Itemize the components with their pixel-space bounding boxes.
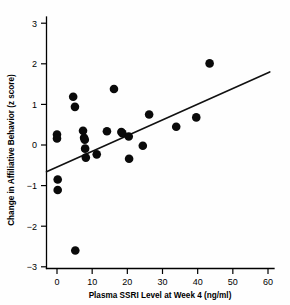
x-tick-label: 50: [228, 277, 238, 287]
x-tick-label: 10: [87, 277, 97, 287]
x-tick-label: 30: [157, 277, 167, 287]
y-tick-label: −3: [27, 262, 37, 272]
y-tick-label: 2: [32, 59, 37, 69]
data-point: [205, 59, 214, 68]
data-point: [92, 150, 101, 159]
x-tick-label: 20: [122, 277, 132, 287]
y-tick-label: −1: [27, 181, 37, 191]
data-point: [139, 142, 148, 151]
regression-line: [46, 72, 269, 172]
y-tick-label: −2: [27, 222, 37, 232]
data-points-group: [53, 59, 214, 255]
data-point: [124, 132, 133, 141]
x-tick-label: 60: [263, 277, 273, 287]
y-tick-label: 3: [32, 19, 37, 29]
data-point: [82, 153, 91, 162]
x-tick-label: 0: [54, 277, 59, 287]
x-tick-label: 40: [193, 277, 203, 287]
data-point: [145, 110, 154, 119]
data-point: [71, 246, 80, 255]
data-point: [192, 113, 201, 122]
y-tick-label: 0: [32, 140, 37, 150]
data-point: [125, 155, 134, 164]
data-point: [81, 144, 90, 153]
data-point: [53, 175, 62, 184]
x-axis-ticks: 0102030405060: [54, 269, 273, 288]
y-axis-ticks: −3−2−10123: [27, 19, 47, 273]
data-point: [53, 134, 62, 143]
data-point: [53, 186, 62, 195]
data-point: [103, 127, 112, 136]
data-point: [172, 122, 181, 131]
y-axis-label: Change in Affiliative Behavior (z score): [7, 74, 16, 226]
plot-canvas: Change in Affiliative Behavior (z score)…: [0, 0, 290, 305]
y-tick-label: 1: [32, 100, 37, 110]
data-point: [80, 135, 89, 144]
scatter-plot-figure: Change in Affiliative Behavior (z score)…: [0, 0, 290, 305]
data-point: [69, 92, 78, 101]
data-point: [71, 103, 80, 112]
x-axis-label: Plasma SSRI Level at Week 4 (ng/ml): [89, 291, 232, 300]
data-point: [110, 85, 119, 94]
